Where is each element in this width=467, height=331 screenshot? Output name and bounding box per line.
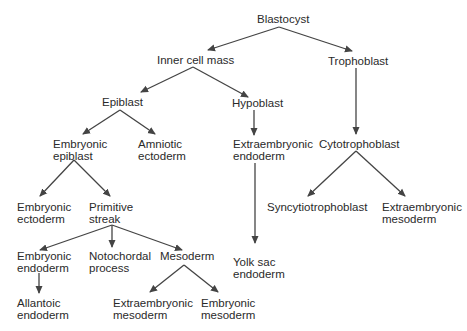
node-blastocyst: Blastocyst	[257, 13, 309, 25]
node-inner-cell-mass: Inner cell mass	[157, 54, 234, 66]
node-mesoderm: Mesoderm	[160, 250, 214, 262]
node-trophoblast: Trophoblast	[328, 55, 388, 67]
edge-epiblast-embepi	[83, 110, 120, 134]
edge-icm-epiblast	[141, 67, 193, 92]
node-extraembryonic-mesoderm: Extraembryonic mesoderm	[113, 297, 193, 321]
node-cytotrophoblast: Cytotrophoblast	[319, 138, 400, 150]
edge-meso-exmeso	[150, 265, 184, 292]
node-extraembryonic-mesoderm-trophoblast: Extraembryonic mesoderm	[382, 201, 462, 225]
edge-ps-mesoderm	[112, 225, 182, 250]
edge-meso-embmeso	[184, 265, 218, 292]
node-amniotic-ectoderm: Amniotic ectoderm	[138, 138, 186, 162]
node-embryonic-epiblast: Embryonic epiblast	[53, 138, 107, 162]
node-yolk-sac-endoderm: Yolk sac endoderm	[233, 256, 285, 280]
edges	[0, 0, 467, 331]
edge-ps-embendo	[40, 225, 112, 250]
edge-blastocyst-icm	[208, 27, 279, 50]
node-primitive-streak: Primitive streak	[89, 201, 133, 225]
node-extraembryonic-endoderm: Extraembryonic endoderm	[233, 138, 313, 162]
node-embryonic-mesoderm: Embryonic mesoderm	[201, 297, 255, 321]
node-epiblast: Epiblast	[102, 96, 143, 108]
edge-icm-hypoblast	[193, 67, 248, 97]
edge-blastocyst-trophoblast	[279, 27, 352, 51]
node-notochordal-process: Notochordal process	[89, 250, 151, 274]
edge-embepi-embecto	[40, 160, 74, 196]
node-embryonic-endoderm: Embryonic endoderm	[17, 250, 71, 274]
edge-epiblast-amniotic	[120, 110, 155, 134]
edge-cyto-exmeso	[356, 151, 405, 196]
node-hypoblast: Hypoblast	[232, 97, 283, 109]
node-syncytiotrophoblast: Syncytiotrophoblast	[267, 201, 367, 213]
edge-embepi-primstreak	[74, 160, 110, 196]
edge-cyto-syncytio	[308, 151, 356, 196]
node-embryonic-ectoderm: Embryonic ectoderm	[17, 201, 71, 225]
blastocyst-lineage-diagram: Blastocyst Inner cell mass Trophoblast E…	[0, 0, 467, 331]
node-allantoic-endoderm: Allantoic endoderm	[17, 297, 69, 321]
